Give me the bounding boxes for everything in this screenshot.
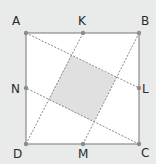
geometry-diagram: ABCDKLMN [0,0,156,164]
label-k: K [78,14,87,28]
label-a: A [12,14,21,28]
label-m: M [78,147,88,161]
point-d [24,142,28,146]
point-k [81,31,85,35]
label-c: C [141,146,149,160]
point-l [137,86,141,90]
point-a [24,31,28,35]
point-m [81,142,85,146]
point-b [137,31,141,35]
label-l: L [142,82,149,96]
label-d: D [13,147,22,161]
point-n [24,86,28,90]
label-n: N [11,82,20,96]
label-b: B [141,14,149,28]
